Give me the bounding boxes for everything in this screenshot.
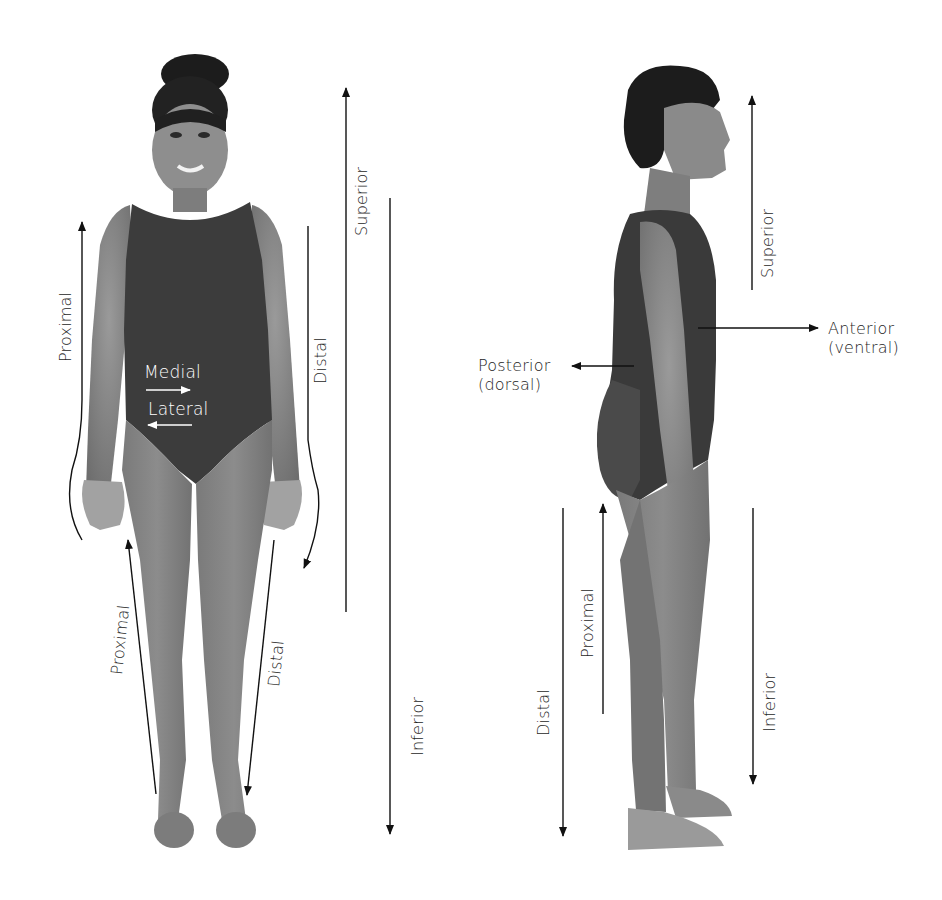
arm-distal-arrow (304, 226, 319, 568)
anterior-view-figure (0, 0, 942, 900)
label-lateral: Lateral (148, 401, 209, 418)
label-arm-proximal: Proximal (58, 292, 74, 362)
label-dorsal-text: (dorsal) (478, 375, 551, 394)
label-inferior: Inferior (410, 697, 426, 756)
anatomy-diagram: Proximal Distal Medial Lateral Superior … (0, 0, 942, 900)
label-side-distal: Distal (536, 689, 552, 736)
label-side-proximal: Proximal (580, 588, 596, 658)
label-posterior: Posterior (dorsal) (478, 356, 551, 394)
front-body (82, 54, 302, 848)
label-side-inferior: Inferior (762, 673, 778, 732)
label-medial: Medial (144, 364, 201, 381)
label-leg-distal: Distal (266, 639, 287, 687)
side-body (597, 66, 732, 851)
label-posterior-text: Posterior (478, 356, 551, 375)
label-ventral-text: (ventral) (828, 338, 899, 357)
label-anterior-text: Anterior (828, 319, 899, 338)
arm-proximal-arrow (70, 222, 82, 540)
label-arm-distal: Distal (313, 337, 329, 384)
label-anterior: Anterior (ventral) (828, 319, 899, 357)
label-superior: Superior (354, 167, 370, 236)
label-side-superior: Superior (760, 209, 776, 278)
